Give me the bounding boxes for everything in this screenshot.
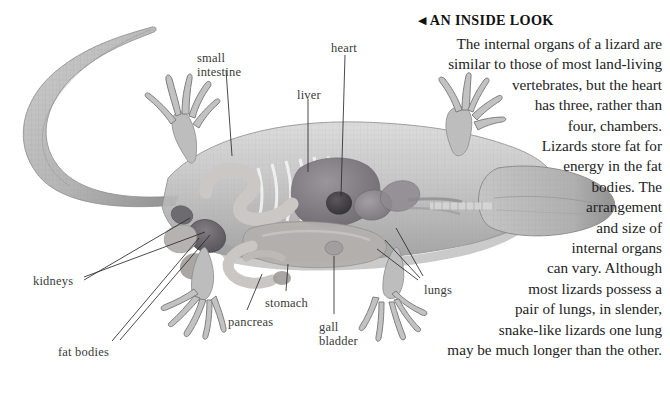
label-pancreas: pancreas — [228, 315, 273, 329]
body-line: and size of — [410, 218, 662, 238]
label-fat-bodies: fat bodies — [58, 345, 109, 359]
body-line: most lizards possess a — [410, 279, 662, 299]
body-line: pair of lungs, in slender, — [410, 299, 662, 319]
heart-organ — [326, 192, 352, 215]
body-line: vertebrates, but the heart — [410, 75, 662, 95]
body-line: bodies. The — [410, 177, 662, 197]
body-line: has three, rather than — [410, 95, 662, 115]
body-line: similar to those of most land-living — [410, 54, 662, 74]
body-line: energy in the fat — [410, 156, 662, 176]
body-line: internal organs — [410, 238, 662, 258]
leader-fat-bodies-a — [112, 238, 199, 341]
body-paragraph: The internal organs of a lizard are simi… — [410, 34, 662, 361]
body-line: four, chambers. — [410, 116, 662, 136]
gall-bladder-organ — [325, 241, 343, 255]
inside-look-illustration-page: small intestine heart liver kidneys fat … — [0, 0, 670, 394]
label-liver: liver — [297, 88, 321, 102]
fat-body-1 — [164, 225, 197, 253]
label-heart: heart — [331, 41, 357, 55]
body-line: may be much longer than the other. — [410, 340, 662, 360]
body-line: The internal organs of a lizard are — [410, 34, 662, 54]
label-kidneys: kidneys — [33, 274, 73, 288]
page-title-text: AN INSIDE LOOK — [430, 12, 554, 28]
lizard-tail — [23, 27, 178, 207]
inside-look-text-column: ◀AN INSIDE LOOK The internal organs of a… — [410, 12, 662, 361]
body-line: can vary. Although — [410, 258, 662, 278]
body-line: arrangement — [410, 197, 662, 217]
left-triangle-icon: ◀ — [418, 14, 427, 26]
page-title: ◀AN INSIDE LOOK — [410, 12, 662, 29]
label-gall-bladder: gall bladder — [319, 320, 358, 348]
body-line: Lizards store fat for — [410, 136, 662, 156]
body-line: snake-like lizards one lung — [410, 320, 662, 340]
label-small-intestine: small intestine — [197, 51, 241, 79]
label-stomach: stomach — [265, 296, 308, 310]
